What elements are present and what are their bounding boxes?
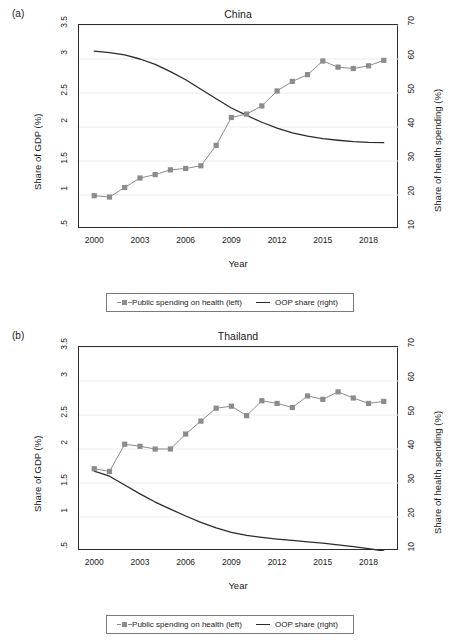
square-marker-icon xyxy=(122,300,127,305)
panel-label-b: (b) xyxy=(12,330,24,341)
x-axis-tick: 2000 xyxy=(78,235,110,245)
y-axis-tick-left: 1.5 xyxy=(59,474,73,486)
x-axis-tick: 2018 xyxy=(353,557,385,567)
square-marker-icon xyxy=(122,622,127,627)
y-axis-title-right-a: Share of health spending (%) xyxy=(432,52,443,212)
plot-area-thailand: .511.522.533.510203040506070200020032006… xyxy=(78,346,398,550)
line-marker-icon xyxy=(256,624,270,626)
plot-svg-thailand xyxy=(79,347,399,551)
y-axis-tick-left: 1 xyxy=(59,186,73,191)
y-axis-tick-right: 50 xyxy=(406,84,420,93)
x-axis-tick: 2009 xyxy=(215,557,247,567)
x-axis-tick: 2018 xyxy=(353,235,385,245)
x-axis-tick: 2006 xyxy=(170,557,202,567)
x-axis-title-a: Year xyxy=(78,258,398,269)
y-axis-title-left-a: Share of GDP (%) xyxy=(32,70,43,190)
x-axis-tick: 2012 xyxy=(261,557,293,567)
plot-area-china: .511.522.533.510203040506070200020032006… xyxy=(78,24,398,228)
y-axis-tick-right: 30 xyxy=(406,152,420,161)
panel-china: (a) China Share of GDP (%) Share of heal… xyxy=(0,0,458,322)
legend-item-public-spending: Public spending on health (left) xyxy=(122,620,242,629)
y-axis-tick-left: 2 xyxy=(59,440,73,445)
y-axis-title-right-b: Share of health spending (%) xyxy=(432,374,443,534)
y-axis-tick-right: 20 xyxy=(406,186,420,195)
legend-label-oop-share: OOP share (right) xyxy=(275,298,338,307)
x-axis-tick: 2006 xyxy=(170,235,202,245)
x-axis-title-b: Year xyxy=(78,580,398,591)
y-axis-tick-right: 30 xyxy=(406,474,420,483)
x-axis-tick: 2000 xyxy=(78,557,110,567)
chart-title-china: China xyxy=(78,8,398,20)
y-axis-tick-right: 10 xyxy=(406,542,420,551)
y-axis-tick-left: 2.5 xyxy=(59,84,73,96)
y-axis-tick-right: 70 xyxy=(406,338,420,347)
x-axis-tick: 2009 xyxy=(215,235,247,245)
legend-label-public-spending: Public spending on health (left) xyxy=(132,620,242,629)
legend-label-public-spending: Public spending on health (left) xyxy=(132,298,242,307)
y-axis-tick-left: 1.5 xyxy=(59,152,73,164)
x-axis-tick: 2015 xyxy=(307,557,339,567)
x-axis-tick: 2012 xyxy=(261,235,293,245)
y-axis-tick-left: 2.5 xyxy=(59,406,73,418)
y-axis-tick-right: 70 xyxy=(406,16,420,25)
y-axis-tick-left: .5 xyxy=(59,542,73,549)
legend-item-oop-share: OOP share (right) xyxy=(256,620,338,629)
panel-thailand: (b) Thailand Share of GDP (%) Share of h… xyxy=(0,322,458,644)
x-axis-tick: 2003 xyxy=(124,557,156,567)
y-axis-tick-right: 60 xyxy=(406,372,420,381)
y-axis-tick-right: 20 xyxy=(406,508,420,517)
y-axis-tick-left: .5 xyxy=(59,220,73,227)
y-axis-tick-left: 3 xyxy=(59,372,73,377)
legend-label-oop-share: OOP share (right) xyxy=(275,620,338,629)
y-axis-tick-left: 3.5 xyxy=(59,338,73,350)
y-axis-title-left-b: Share of GDP (%) xyxy=(32,392,43,512)
plot-svg-china xyxy=(79,25,399,229)
legend-item-oop-share: OOP share (right) xyxy=(256,298,338,307)
chart-title-thailand: Thailand xyxy=(78,330,398,342)
legend-thailand: Public spending on health (left) OOP sha… xyxy=(106,615,354,634)
y-axis-tick-right: 50 xyxy=(406,406,420,415)
y-axis-tick-left: 3.5 xyxy=(59,16,73,28)
y-axis-tick-right: 60 xyxy=(406,50,420,59)
y-axis-tick-right: 40 xyxy=(406,118,420,127)
y-axis-tick-right: 40 xyxy=(406,440,420,449)
x-axis-tick: 2003 xyxy=(124,235,156,245)
y-axis-tick-left: 1 xyxy=(59,508,73,513)
x-axis-tick: 2015 xyxy=(307,235,339,245)
legend-item-public-spending: Public spending on health (left) xyxy=(122,298,242,307)
panel-label-a: (a) xyxy=(12,8,24,19)
line-marker-icon xyxy=(256,302,270,304)
y-axis-tick-left: 2 xyxy=(59,118,73,123)
y-axis-tick-left: 3 xyxy=(59,50,73,55)
y-axis-tick-right: 10 xyxy=(406,220,420,229)
legend-china: Public spending on health (left) OOP sha… xyxy=(106,293,354,312)
